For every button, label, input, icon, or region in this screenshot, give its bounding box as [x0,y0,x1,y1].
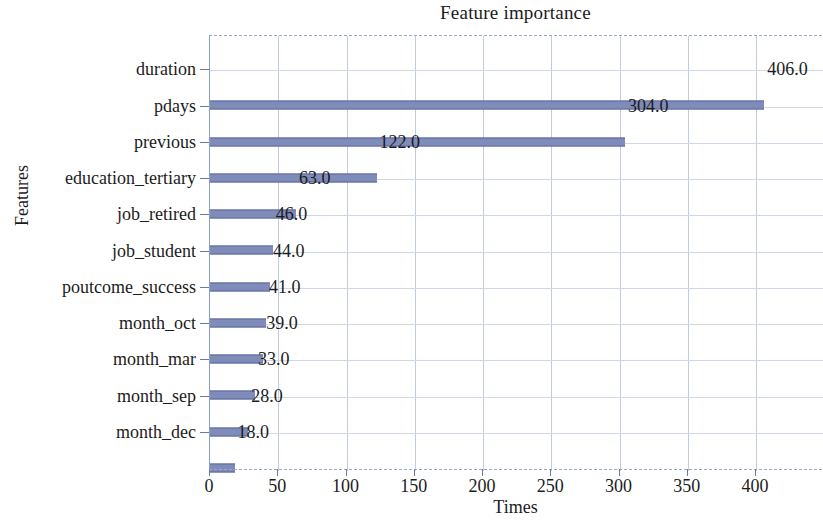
x-axis-tick [209,469,210,476]
x-axis-tick-label: 200 [452,476,512,497]
y-axis-tick [200,432,209,433]
x-axis-tick [482,469,483,476]
bar-value-label: 122.0 [380,131,421,152]
x-axis-title: Times [209,497,822,518]
x-axis-tick-label: 150 [384,476,444,497]
y-axis-tick-label: month_mar [0,349,196,370]
x-axis-tick [687,469,688,476]
y-axis-tick [200,178,209,179]
bar [210,318,266,327]
y-axis-tick [200,251,209,252]
bar-value-label: 39.0 [266,313,298,334]
y-axis-tick [200,69,209,70]
gridline-horizontal [210,70,823,71]
y-axis-tick-label: month_dec [0,421,196,442]
bar-value-label: 63.0 [299,168,331,189]
bar [210,463,235,472]
bar [210,246,273,255]
x-axis-tick [755,469,756,476]
x-axis-tick [277,469,278,476]
x-axis-tick [414,469,415,476]
x-axis-tick [346,469,347,476]
bar-value-label: 44.0 [273,240,305,261]
y-axis-tick-label: education_tertiary [0,168,196,189]
y-axis-tick [200,323,209,324]
x-axis-tick-label: 100 [316,476,376,497]
bar [210,391,255,400]
x-axis-tick-label: 300 [589,476,649,497]
y-axis-tick-label: duration [0,59,196,80]
bar-value-label: 41.0 [269,276,301,297]
gridline-horizontal [210,397,823,398]
y-axis-title: Features [12,146,33,246]
y-axis-tick [200,396,209,397]
y-axis-tick-label: job_student [0,240,196,261]
chart-title: Feature importance [209,2,822,24]
y-axis-tick-label: job_retired [0,204,196,225]
x-axis-tick-label: 400 [725,476,785,497]
y-axis-tick-label: pdays [0,95,196,116]
x-axis-tick-label: 350 [657,476,717,497]
gridline-horizontal [210,324,823,325]
bar-value-label: 304.0 [628,95,669,116]
bar [210,282,270,291]
y-axis-tick [200,106,209,107]
y-axis-tick [200,287,209,288]
y-axis-tick [200,214,209,215]
bar [210,101,764,110]
x-axis-tick [619,469,620,476]
x-axis-tick-label: 50 [247,476,307,497]
bar [210,355,263,364]
bar-value-label: 46.0 [276,204,308,225]
x-axis-line [209,469,822,470]
bar-value-label: 406.0 [767,59,808,80]
y-axis-tick-label: month_sep [0,385,196,406]
y-axis-tick-label: month_oct [0,313,196,334]
gridline-horizontal [210,360,823,361]
bar-value-label: 28.0 [251,385,283,406]
gridline-horizontal [210,288,823,289]
x-axis-tick-label: 250 [520,476,580,497]
gridline-horizontal [210,433,823,434]
y-axis-tick [200,142,209,143]
y-axis-tick-label: previous [0,131,196,152]
y-axis-tick-label: poutcome_success [0,276,196,297]
x-axis-tick [550,469,551,476]
bar [210,173,377,182]
y-axis-tick [200,359,209,360]
bar-value-label: 33.0 [258,349,290,370]
x-axis-tick-label: 0 [179,476,239,497]
bar-value-label: 18.0 [238,421,270,442]
